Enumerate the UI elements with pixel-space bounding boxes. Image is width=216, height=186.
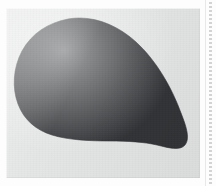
specimen-silhouette-path: [14, 18, 187, 148]
figure-root: Solid dark charcoal teardrop / leaf-blad…: [0, 0, 216, 186]
image-plate: Solid dark charcoal teardrop / leaf-blad…: [6, 8, 200, 178]
right-dotted-rule: [209, 2, 212, 184]
specimen-silhouette-canvas: Solid dark charcoal teardrop / leaf-blad…: [6, 8, 200, 178]
right-hairline: [205, 0, 206, 186]
